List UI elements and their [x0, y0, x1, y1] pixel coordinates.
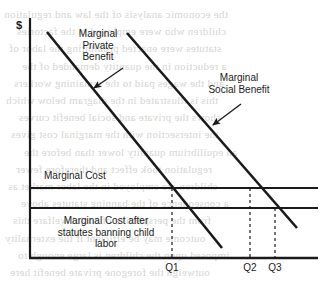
- msb-annotation-arrow: [213, 104, 241, 125]
- economics-diagram-figure: the economic analysis of the law and reg…: [0, 0, 328, 290]
- y-axis-unit-label: $: [12, 20, 26, 32]
- marginal-cost-after-statutes-label: Marginal Cost after statutes banning chi…: [42, 215, 170, 250]
- q1-label: Q1: [162, 262, 182, 274]
- mpb-annotation-arrow: [94, 68, 123, 88]
- marginal-cost-label: Marginal Cost: [44, 170, 164, 182]
- marginal-social-benefit-curve: [127, 33, 297, 228]
- marginal-social-benefit-label: Marginal Social Benefit: [190, 72, 288, 95]
- marginal-private-benefit-label: Marginal Private Benefit: [62, 28, 134, 63]
- q3-label: Q3: [265, 262, 285, 274]
- q2-label: Q2: [240, 262, 260, 274]
